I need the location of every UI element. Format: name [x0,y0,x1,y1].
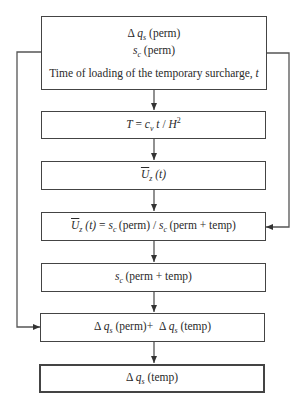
time-factor-box: T = cv t / H2 [41,111,266,139]
total-surcharge-formula: Δ qs (perm)+ Δ qs (temp) [94,319,211,336]
input-line-time: Time of loading of the temporary surchar… [49,66,259,80]
time-factor-formula: T = cv t / H2 [126,116,181,134]
avg-consolidation-formula: Uz (t) [141,167,166,184]
consolidation-ratio-formula: Uz (t) = sc (perm) / sc (perm + temp) [71,218,236,235]
consolidation-ratio-box: Uz (t) = sc (perm) / sc (perm + temp) [41,212,266,241]
total-surcharge-box: Δ qs (perm)+ Δ qs (temp) [40,313,265,342]
arrow-input-left-branch [17,52,41,327]
total-settlement-formula: sc (perm + temp) [115,269,192,286]
temp-surcharge-box: Δ qs (temp) [39,364,265,393]
arrow-input-right-branch [266,53,289,227]
input-line-settlement: sc (perm) [133,43,175,60]
avg-consolidation-box: Uz (t) [41,161,266,190]
input-box: Δ qs (perm) sc (perm) Time of loading of… [41,16,267,90]
input-line-surcharge: Δ qs (perm) [128,26,181,43]
temp-surcharge-formula: Δ qs (temp) [126,370,178,387]
total-settlement-box: sc (perm + temp) [41,263,266,292]
